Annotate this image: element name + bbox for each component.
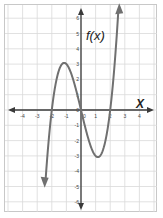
svg-text:-4: -4 xyxy=(20,113,25,119)
svg-text:1: 1 xyxy=(94,113,97,119)
svg-text:6: 6 xyxy=(76,15,79,21)
svg-text:-4: -4 xyxy=(75,168,80,174)
function-curve xyxy=(46,12,119,178)
svg-text:4: 4 xyxy=(76,46,79,52)
svg-text:-5: -5 xyxy=(75,184,80,190)
function-label: f(x) xyxy=(86,28,105,43)
svg-text:-1: -1 xyxy=(64,113,69,119)
svg-text:-2: -2 xyxy=(75,138,80,144)
svg-text:2: 2 xyxy=(76,76,79,82)
svg-text:-6: -6 xyxy=(75,199,80,205)
svg-text:4: 4 xyxy=(138,113,141,119)
function-graph: -4-3-2-11234-6-5-4-3-2-101234560 f(x) X xyxy=(0,0,163,218)
svg-text:-3: -3 xyxy=(35,113,40,119)
svg-text:5: 5 xyxy=(76,31,79,37)
svg-text:3: 3 xyxy=(76,61,79,67)
x-axis-label: X xyxy=(135,97,145,111)
svg-text:3: 3 xyxy=(123,113,126,119)
svg-text:0: 0 xyxy=(76,107,79,113)
svg-text:-3: -3 xyxy=(75,153,80,159)
svg-text:-1: -1 xyxy=(75,122,80,128)
